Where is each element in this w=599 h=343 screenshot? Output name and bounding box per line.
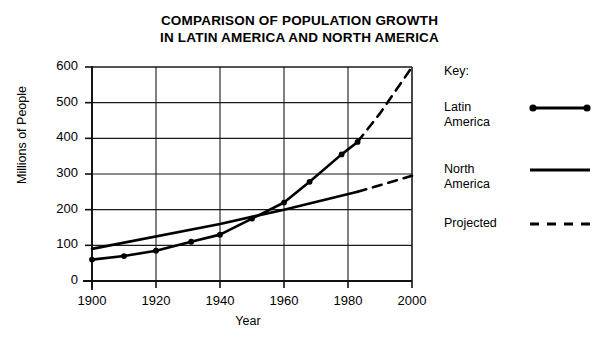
series-line: [92, 192, 358, 249]
y-tick-label: 400: [36, 129, 78, 144]
y-tick-label: 600: [36, 58, 78, 73]
y-axis-title: Millions of People: [15, 50, 29, 220]
x-tick-label: 1980: [318, 293, 378, 308]
legend-swatch-dashed-line: [524, 216, 596, 232]
y-tick-label: 300: [36, 165, 78, 180]
legend-heading: Key:: [444, 64, 469, 78]
legend-label-line-2: America: [444, 115, 516, 130]
legend-item-label: NorthAmerica: [444, 162, 516, 192]
axes: [83, 66, 412, 290]
y-tick-label: 500: [36, 94, 78, 109]
data-point: [339, 151, 345, 157]
legend-label-line-1: Latin: [444, 100, 516, 115]
legend-item-label: Projected: [444, 216, 516, 231]
y-tick-label: 200: [36, 201, 78, 216]
y-tick-label: 100: [36, 236, 78, 251]
y-tick-label: 0: [36, 272, 78, 287]
x-tick-label: 1960: [254, 293, 314, 308]
gridlines: [92, 67, 412, 281]
x-tick-label: 1920: [126, 293, 186, 308]
series-line: [358, 176, 412, 192]
data-point: [217, 232, 223, 238]
x-axis-title: Year: [168, 314, 328, 328]
data-point: [153, 248, 159, 254]
data-point: [121, 253, 127, 259]
legend: Key: LatinAmericaNorthAmericaProjected: [444, 64, 599, 244]
legend-swatch-solid-line: [524, 162, 596, 178]
x-tick-label: 1940: [190, 293, 250, 308]
legend-label-line-1: Projected: [444, 216, 516, 231]
series-line: [358, 67, 412, 142]
x-tick-label: 2000: [382, 293, 442, 308]
chart-page: COMPARISON OF POPULATION GROWTH IN LATIN…: [0, 0, 599, 343]
data-series-group: [89, 67, 412, 263]
data-point: [281, 200, 287, 206]
data-point: [188, 239, 194, 245]
legend-item-label: LatinAmerica: [444, 100, 516, 130]
legend-swatch-line-with-dots: [524, 100, 596, 116]
legend-label-line-2: America: [444, 177, 516, 192]
data-point: [307, 179, 313, 185]
x-tick-label: 1900: [62, 293, 122, 308]
legend-label-line-1: North: [444, 162, 516, 177]
data-point: [89, 257, 95, 263]
